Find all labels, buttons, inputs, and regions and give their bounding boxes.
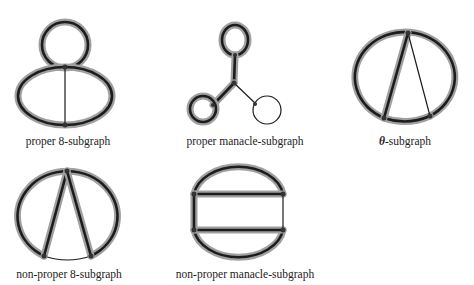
theta-subgraph-figure bbox=[355, 31, 455, 122]
theta-label-text: -subgraph bbox=[385, 135, 431, 147]
label-theta-subgraph: θ-subgraph bbox=[379, 135, 431, 147]
label-proper-8-subgraph: proper 8-subgraph bbox=[26, 135, 111, 147]
proper-manacle-subgraph-figure bbox=[190, 25, 281, 124]
non-proper-manacle-subgraph-figure bbox=[192, 167, 286, 257]
label-non-proper-manacle-subgraph: non-proper manacle-subgraph bbox=[176, 268, 314, 280]
label-proper-manacle-subgraph: proper manacle-subgraph bbox=[186, 135, 303, 147]
non-proper-8-subgraph-figure bbox=[17, 169, 117, 261]
label-non-proper-8-subgraph: non-proper 8-subgraph bbox=[16, 268, 122, 280]
proper-8-subgraph-figure bbox=[18, 22, 112, 128]
